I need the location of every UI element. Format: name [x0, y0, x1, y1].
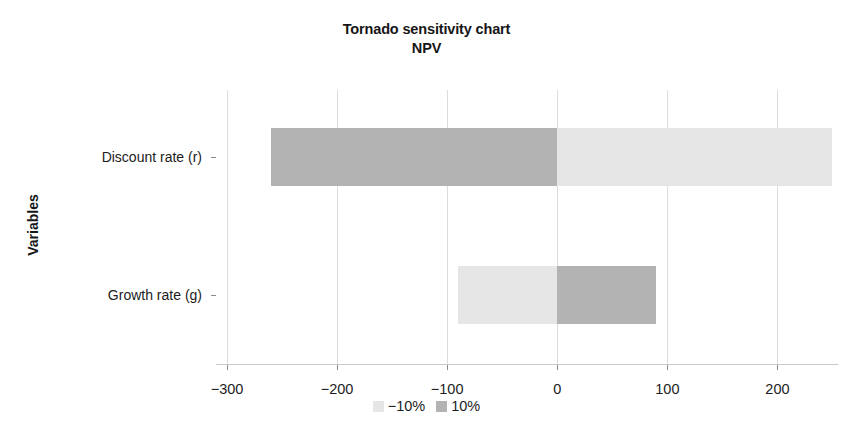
x-tick--100	[447, 365, 448, 370]
x-tick-200	[777, 365, 778, 370]
chart-title-block: Tornado sensitivity chart NPV	[0, 20, 853, 58]
x-tick-label--100: −100	[431, 381, 464, 397]
chart-title: Tornado sensitivity chart	[0, 20, 853, 39]
legend-item-0[interactable]: −10%	[373, 398, 426, 414]
x-tick-100	[667, 365, 668, 370]
legend-item-1[interactable]: 10%	[436, 398, 480, 414]
x-tick-label-200: 200	[765, 381, 789, 397]
bar-segment-positive-0[interactable]	[557, 128, 832, 186]
chart-legend: −10%10%	[0, 398, 853, 414]
y-tick-label-0: Discount rate (r)	[102, 149, 202, 165]
x-tick--300	[227, 365, 228, 370]
gridline--300	[227, 90, 228, 365]
y-axis-title: Variables	[25, 194, 41, 256]
plot-area	[216, 90, 838, 365]
bar-segment-negative-0[interactable]	[271, 128, 557, 186]
x-axis-line	[216, 364, 838, 365]
x-tick-label-100: 100	[655, 381, 679, 397]
x-tick-label--300: −300	[211, 381, 244, 397]
legend-label-1: 10%	[451, 398, 480, 414]
chart-subtitle: NPV	[0, 39, 853, 58]
x-tick--200	[337, 365, 338, 370]
legend-label-0: −10%	[388, 398, 426, 414]
y-tick-label-1: Growth rate (g)	[108, 287, 202, 303]
bar-segment-positive-1[interactable]	[557, 266, 656, 324]
x-tick-label-0: 0	[553, 381, 561, 397]
x-tick-label--200: −200	[321, 381, 354, 397]
legend-swatch-icon-1	[436, 401, 447, 412]
legend-swatch-icon-0	[373, 401, 384, 412]
bar-segment-negative-1[interactable]	[458, 266, 557, 324]
y-tick-1	[211, 295, 216, 296]
y-tick-0	[211, 157, 216, 158]
x-tick-0	[557, 365, 558, 370]
tornado-sensitivity-chart: Tornado sensitivity chart NPV Variables …	[0, 0, 853, 444]
